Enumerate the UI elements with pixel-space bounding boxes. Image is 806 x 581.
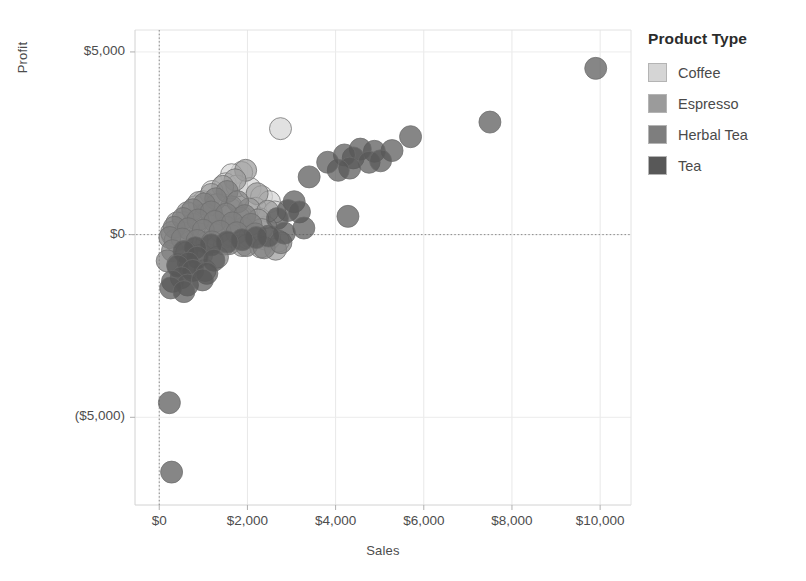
- data-point: [191, 269, 213, 291]
- data-point: [298, 166, 320, 188]
- x-axis-title: Sales: [0, 543, 766, 558]
- legend-item-label: Coffee: [678, 65, 720, 81]
- legend-item-label: Espresso: [678, 96, 738, 112]
- legend-item-tea[interactable]: Tea: [648, 150, 804, 181]
- data-point: [337, 205, 359, 227]
- y-tick-label: $0: [5, 226, 125, 241]
- data-point: [479, 111, 501, 133]
- legend-title: Product Type: [648, 30, 804, 48]
- legend-entries: CoffeeEspressoHerbal TeaTea: [648, 57, 804, 181]
- data-point: [293, 217, 315, 239]
- data-point: [585, 57, 607, 79]
- data-point: [317, 151, 339, 173]
- legend: Product Type CoffeeEspressoHerbal TeaTea: [648, 30, 804, 181]
- legend-item-herbal-tea[interactable]: Herbal Tea: [648, 119, 804, 150]
- legend-swatch-icon: [648, 63, 667, 82]
- legend-item-label: Herbal Tea: [678, 127, 748, 143]
- scatter-chart: Profit Sales $5,000$0($5,000)$0$2,000$4,…: [0, 0, 806, 581]
- data-point: [161, 461, 183, 483]
- y-tick-label: $5,000: [5, 43, 125, 58]
- legend-item-label: Tea: [678, 158, 701, 174]
- legend-item-espresso[interactable]: Espresso: [648, 88, 804, 119]
- legend-item-coffee[interactable]: Coffee: [648, 57, 804, 88]
- data-point: [269, 118, 291, 140]
- data-point: [173, 281, 195, 303]
- data-point: [400, 126, 422, 148]
- x-tick-label: $10,000: [545, 513, 655, 528]
- data-point: [158, 392, 180, 414]
- legend-swatch-icon: [648, 156, 667, 175]
- legend-swatch-icon: [648, 94, 667, 113]
- data-point: [370, 150, 392, 172]
- y-tick-label: ($5,000): [5, 408, 125, 423]
- legend-swatch-icon: [648, 125, 667, 144]
